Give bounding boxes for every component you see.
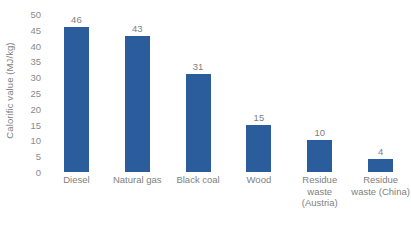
bar-value-label: 43 (113, 23, 162, 34)
bar-group: 10 (307, 0, 332, 172)
bar-chart: Calorific value (MJ/kg) 5045403530252015… (0, 0, 411, 225)
y-axis-tick-labels: 50454035302520151050 (18, 0, 44, 180)
y-axis-tick: 40 (30, 40, 41, 51)
y-axis-title: Calorific value (MJ/kg) (0, 0, 18, 180)
y-axis-tick: 10 (30, 135, 41, 146)
x-axis-tick-labels: DieselNatural gasBlack coalWoodResidue w… (46, 174, 411, 225)
y-axis-tick: 20 (30, 103, 41, 114)
y-axis-title-text: Calorific value (MJ/kg) (4, 42, 15, 138)
y-axis-tick: 5 (36, 151, 41, 162)
bar (246, 125, 271, 172)
x-axis-category-label: Residue waste (China) (350, 174, 411, 197)
bar (368, 159, 393, 172)
y-axis-tick: 30 (30, 72, 41, 83)
bar-value-label: 4 (356, 146, 405, 157)
y-axis-tick: 35 (30, 56, 41, 67)
bar-group: 31 (186, 0, 211, 172)
bar-group: 4 (368, 0, 393, 172)
x-axis-category-label: Diesel (46, 174, 107, 186)
bar (186, 74, 211, 172)
bar-value-label: 10 (295, 127, 344, 138)
y-axis-tick: 15 (30, 119, 41, 130)
bar-group: 43 (125, 0, 150, 172)
bar (125, 36, 150, 172)
bar-value-label: 31 (174, 61, 223, 72)
x-axis-category-label: Black coal (168, 174, 229, 186)
x-axis-category-label: Natural gas (107, 174, 168, 186)
bar-value-label: 46 (52, 14, 101, 25)
x-axis-category-label: Wood (229, 174, 290, 186)
y-axis-tick: 45 (30, 24, 41, 35)
bar-group: 46 (64, 0, 89, 172)
bar (307, 140, 332, 172)
x-axis-category-label: Residue waste (Austria) (289, 174, 350, 209)
y-axis-tick: 0 (36, 167, 41, 178)
plot-area: 46433115104 (46, 0, 411, 172)
bar (64, 27, 89, 172)
bar-group: 15 (246, 0, 271, 172)
bar-value-label: 15 (234, 112, 283, 123)
y-axis-tick: 50 (30, 9, 41, 20)
y-axis-tick: 25 (30, 88, 41, 99)
